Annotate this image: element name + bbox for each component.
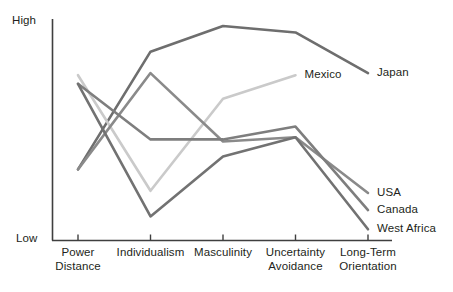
cultural-dimensions-chart: High Low PowerDistanceIndividualismMascu… bbox=[0, 0, 453, 292]
x-axis-label-masculinity: Masculinity bbox=[194, 246, 252, 260]
chart-series-lines bbox=[78, 26, 368, 229]
x-axis-label-line: Individualism bbox=[117, 246, 185, 260]
series-label-japan: Japan bbox=[377, 66, 409, 78]
series-label-canada: Canada bbox=[377, 203, 418, 215]
y-axis-low-label: Low bbox=[16, 232, 37, 244]
x-axis-label-line: Uncertainty bbox=[266, 246, 325, 260]
x-axis-label-line: Avoidance bbox=[266, 260, 325, 274]
x-axis-label-line: Orientation bbox=[339, 260, 396, 274]
x-axis-label-long-term-orientation: Long-TermOrientation bbox=[339, 246, 396, 273]
x-axis-label-uncertainty-avoidance: UncertaintyAvoidance bbox=[266, 246, 325, 273]
x-axis-label-line: Power bbox=[55, 246, 101, 260]
y-axis-high-label: High bbox=[12, 14, 36, 26]
series-line-west-africa bbox=[78, 84, 368, 230]
series-label-usa: USA bbox=[377, 186, 401, 198]
x-axis-ticks bbox=[78, 235, 368, 241]
x-axis-label-line: Distance bbox=[55, 260, 101, 274]
x-axis-label-power-distance: PowerDistance bbox=[55, 246, 101, 273]
series-label-west-africa: West Africa bbox=[377, 222, 436, 234]
x-axis-label-line: Masculinity bbox=[194, 246, 252, 260]
x-axis-label-individualism: Individualism bbox=[117, 246, 185, 260]
x-axis-label-line: Long-Term bbox=[339, 246, 396, 260]
series-label-mexico: Mexico bbox=[305, 68, 342, 80]
